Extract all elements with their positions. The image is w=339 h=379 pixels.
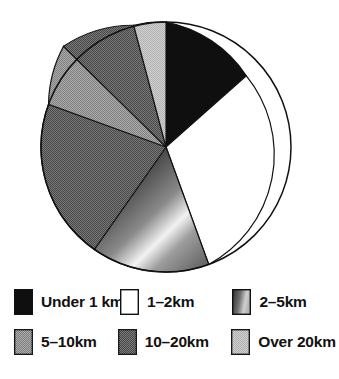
legend-label-1-2km: 1–2km [147,293,194,311]
legend-row: 5–10km 10–20km Over 20km [0,322,339,362]
legend-row: Under 1 km 1–2km 2–5km [0,282,339,322]
legend-label-over-20km: Over 20km [258,333,335,351]
legend-swatch-solid-light-gray [231,329,250,355]
legend-item-10-20km[interactable]: 10–20km [118,329,232,355]
pie-chart-svg [0,0,339,282]
legend-swatch-gradient [232,289,251,315]
legend-swatch-solid-black [14,289,33,315]
legend-swatch-solid-white [120,289,139,315]
legend-item-1-2km[interactable]: 1–2km [120,289,232,315]
legend-item-over-20km[interactable]: Over 20km [231,329,339,355]
legend-label-2-5km: 2–5km [259,293,306,311]
legend-label-5-10km: 5–10km [41,333,97,351]
pie-chart-plot-area [0,0,339,282]
chart-legend: Under 1 km 1–2km 2–5km 5– [0,282,339,379]
legend-swatch-solid-medium-gray [14,329,33,355]
pie-chart-figure: Under 1 km 1–2km 2–5km 5– [0,0,339,379]
legend-swatch-solid-dark-gray [118,329,137,355]
legend-label-10-20km: 10–20km [145,333,209,351]
legend-item-2-5km[interactable]: 2–5km [232,289,339,315]
legend-item-5-10km[interactable]: 5–10km [14,329,118,355]
legend-label-under-1km: Under 1 km [41,293,123,311]
legend-item-under-1km[interactable]: Under 1 km [14,289,120,315]
